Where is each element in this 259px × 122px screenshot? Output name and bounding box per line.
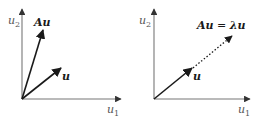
vector-Au <box>22 30 43 99</box>
vector-u-label: u <box>193 70 201 83</box>
right-panel: u2 u1 u Au = λu <box>139 9 250 118</box>
vector-Au-label: Au <box>33 16 51 29</box>
eigen-equation-label: Au = λu <box>196 19 245 32</box>
vector-u <box>22 68 61 99</box>
u1-axis-label: u1 <box>238 103 250 118</box>
u1-axis-label: u1 <box>107 103 119 118</box>
vector-Au-dotted <box>193 36 232 68</box>
left-panel: u2 u1 Au u <box>8 9 121 118</box>
u2-axis-label: u2 <box>139 14 151 29</box>
eigenvector-diagram: u2 u1 Au u u2 u1 u Au = λu <box>0 0 259 122</box>
vector-u-label: u <box>62 70 70 83</box>
u2-axis-label: u2 <box>8 14 20 29</box>
vector-u <box>154 68 192 99</box>
